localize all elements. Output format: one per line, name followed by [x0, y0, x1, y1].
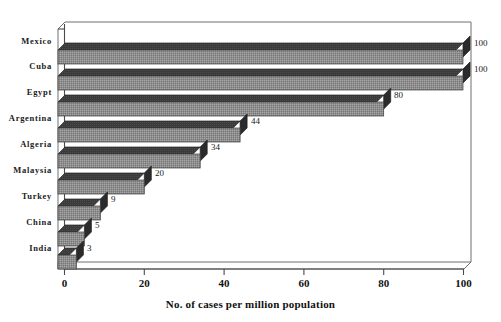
bar-argentina: [58, 114, 247, 142]
x-axis-title: No. of cases per million population: [0, 298, 501, 310]
value-label-egypt: 80: [394, 90, 403, 100]
x-tick-0: 0: [62, 277, 68, 289]
value-label-mexico: 100: [474, 38, 488, 48]
value-label-turkey: 9: [111, 194, 116, 204]
x-tick-1: 20: [139, 277, 150, 289]
plot-floor: [58, 255, 471, 269]
value-label-china: 5: [95, 220, 100, 230]
bar-mexico: [58, 36, 470, 64]
value-label-algeria: 34: [211, 142, 220, 152]
bar-turkey: [58, 192, 107, 220]
bar-cuba: [58, 62, 470, 90]
x-axis: [65, 269, 465, 275]
value-label-india: 3: [87, 243, 92, 253]
value-label-cuba: 100: [474, 64, 488, 74]
bar-egypt: [58, 88, 391, 116]
bar-malaysia: [58, 166, 151, 194]
x-tick-4: 80: [378, 277, 389, 289]
bar-algeria: [58, 140, 207, 168]
x-tick-3: 60: [298, 277, 309, 289]
x-tick-2: 40: [219, 277, 230, 289]
value-label-malaysia: 20: [155, 168, 164, 178]
value-label-argentina: 44: [251, 116, 260, 126]
bar-chart: Mexico Cuba Egypt Argentina Algeria Mala…: [0, 0, 501, 322]
plot-area: [0, 0, 501, 322]
bar-china: [58, 218, 91, 246]
x-tick-5: 100: [455, 277, 472, 289]
